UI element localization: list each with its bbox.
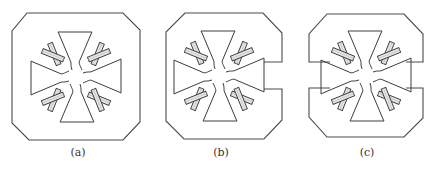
frame-lower-half (309, 88, 423, 137)
panel-b (166, 13, 282, 139)
panel-c (309, 14, 423, 137)
panel-a (12, 13, 140, 140)
diagram-canvas (0, 0, 432, 169)
cross-electrode-b (174, 31, 264, 121)
caption-c: (c) (347, 146, 387, 159)
cross-electrode-c (321, 31, 411, 121)
frame-upper-half (309, 14, 423, 62)
caption-a: (a) (58, 146, 98, 159)
frame-notched-right (166, 13, 282, 139)
caption-b: (b) (201, 146, 241, 159)
cross-electrode-a (31, 32, 121, 122)
